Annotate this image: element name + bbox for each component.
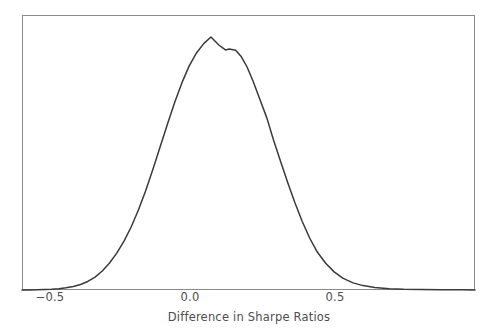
axes-frame bbox=[23, 16, 475, 290]
xtick-label-neg-0-5: −0.5 bbox=[36, 290, 65, 304]
xtick-label-0-5: 0.5 bbox=[326, 290, 345, 304]
x-axis-label: Difference in Sharpe Ratios bbox=[168, 310, 331, 324]
chart-figure: −0.5 0.0 0.5 Difference in Sharpe Ratios bbox=[0, 0, 498, 333]
plot-canvas bbox=[0, 0, 498, 333]
xtick-label-0-0: 0.0 bbox=[181, 290, 200, 304]
density-curve-line bbox=[22, 37, 475, 290]
